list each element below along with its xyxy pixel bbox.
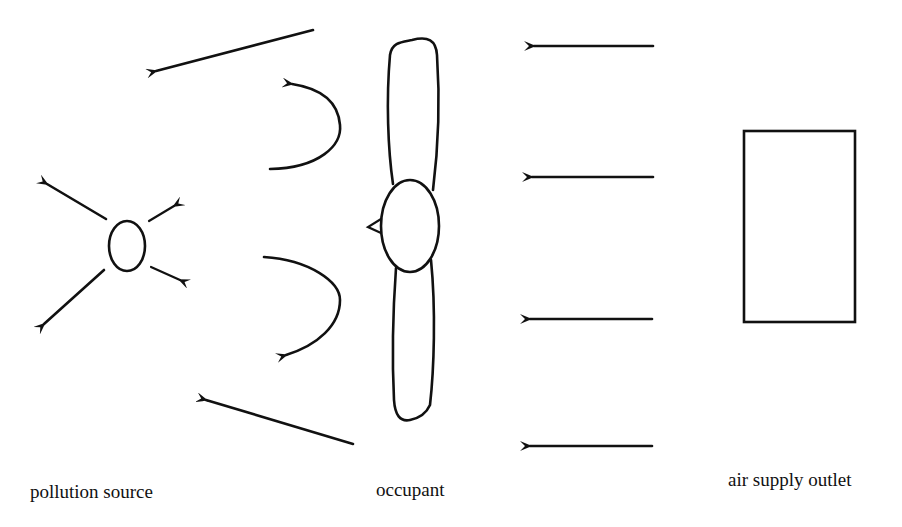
air-supply-outlet-box xyxy=(744,131,855,322)
occupant-upper-arm xyxy=(388,39,439,190)
recirculation-arrow-upper xyxy=(270,84,340,169)
deflected-flow-arrow-upper xyxy=(156,30,313,71)
occupant-label: occupant xyxy=(376,479,445,501)
dispersion-arrow-upper-left xyxy=(47,184,106,219)
occupant-figure xyxy=(368,39,439,421)
airflow-diagram: pollution source occupant air supply out… xyxy=(0,0,902,527)
supply-airflow-arrows xyxy=(530,46,653,446)
pollution-source-label: pollution source xyxy=(30,481,153,503)
recirculation-arrow-lower xyxy=(264,257,340,355)
deflected-flow-arrow-lower xyxy=(206,400,353,444)
air-supply-outlet-label: air supply outlet xyxy=(728,469,851,491)
dispersion-arrow-lower-left xyxy=(44,270,104,324)
occupant-lower-arm xyxy=(393,260,434,420)
dispersion-arrow-lower-right xyxy=(151,267,180,280)
dispersion-arrow-upper-right xyxy=(149,206,174,221)
pollution-source-ellipse xyxy=(109,221,145,271)
diagram-graphic xyxy=(0,0,902,527)
dispersion-arrows xyxy=(44,184,180,324)
occupant-head xyxy=(381,180,439,272)
occupant-nose xyxy=(368,219,381,233)
